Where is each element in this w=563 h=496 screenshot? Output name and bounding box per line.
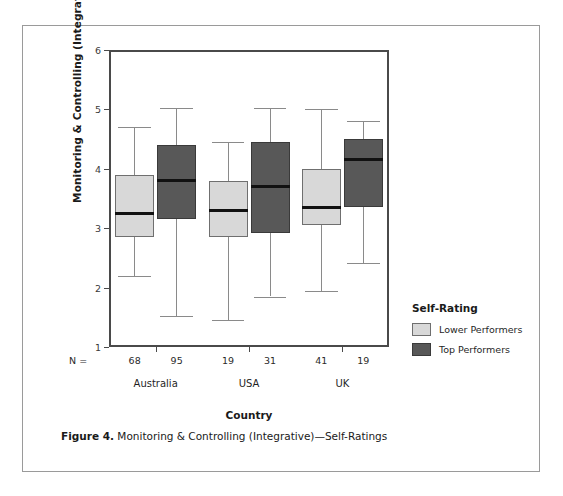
n-value-australia-top-performers: 95 xyxy=(171,355,183,366)
caption-text: Monitoring & Controlling (Integrative)—S… xyxy=(114,430,387,442)
whisker-upper xyxy=(321,109,322,168)
category-label-australia: Australia xyxy=(134,378,178,389)
whisker-lower xyxy=(176,219,177,316)
median-line xyxy=(115,212,154,215)
y-tick-mark-2 xyxy=(104,288,109,289)
y-tick-mark-1 xyxy=(104,347,109,348)
whisker-cap-lower xyxy=(118,276,151,277)
n-value-usa-lower-performers: 19 xyxy=(222,355,234,366)
y-tick-label-1: 1 xyxy=(87,342,101,353)
legend: Self-Rating Lower Performers Top Perform… xyxy=(412,302,537,363)
median-line xyxy=(251,185,290,188)
legend-swatch-top-performers xyxy=(412,343,431,356)
y-tick-mark-5 xyxy=(104,109,109,110)
whisker-cap-lower xyxy=(347,263,380,264)
n-value-uk-lower-performers: 41 xyxy=(315,355,327,366)
whisker-lower xyxy=(321,225,322,290)
legend-label-lower-performers: Lower Performers xyxy=(439,324,522,335)
median-line xyxy=(302,206,341,209)
boxplot-chart: Monitoring & Controlling (Integrative) 6… xyxy=(23,26,541,473)
category-label-usa: USA xyxy=(239,378,260,389)
n-value-australia-lower-performers: 68 xyxy=(129,355,141,366)
figure-page: Monitoring & Controlling (Integrative) 6… xyxy=(0,0,563,496)
legend-swatch-lower-performers xyxy=(412,323,431,336)
whisker-cap-lower xyxy=(305,291,338,292)
whisker-cap-lower xyxy=(160,316,193,317)
median-line xyxy=(344,158,383,161)
n-value-uk-top-performers: 19 xyxy=(357,355,369,366)
whisker-lower xyxy=(228,237,229,320)
y-axis-title: Monitoring & Controlling (Integrative) xyxy=(71,0,83,208)
x-tick-mark-usa xyxy=(249,347,250,352)
y-tick-label-4: 4 xyxy=(87,163,101,174)
caption-prefix: Figure 4. xyxy=(61,430,114,442)
legend-item-lower-performers: Lower Performers xyxy=(412,323,537,336)
y-tick-label-2: 2 xyxy=(87,282,101,293)
median-line xyxy=(209,209,248,212)
box-australia-lower-performers xyxy=(115,175,154,237)
n-equals-label: N = xyxy=(69,355,87,366)
y-tick-label-5: 5 xyxy=(87,104,101,115)
box-uk-top-performers xyxy=(344,139,383,207)
legend-item-top-performers: Top Performers xyxy=(412,343,537,356)
whisker-lower xyxy=(134,237,135,276)
box-uk-lower-performers xyxy=(302,169,341,225)
legend-label-top-performers: Top Performers xyxy=(439,344,510,355)
median-line xyxy=(157,179,196,182)
whisker-cap-upper xyxy=(212,142,245,143)
y-tick-label-3: 3 xyxy=(87,223,101,234)
whisker-cap-lower xyxy=(212,320,245,321)
category-label-uk: UK xyxy=(335,378,349,389)
figure-caption: Figure 4. Monitoring & Controlling (Inte… xyxy=(61,430,387,442)
whisker-cap-lower xyxy=(254,297,287,298)
whisker-upper xyxy=(270,108,271,142)
whisker-cap-upper xyxy=(160,108,193,109)
whisker-upper xyxy=(363,121,364,139)
n-value-usa-top-performers: 31 xyxy=(264,355,276,366)
figure-frame: Monitoring & Controlling (Integrative) 6… xyxy=(22,25,540,472)
y-tick-mark-6 xyxy=(104,50,109,51)
y-tick-label-6: 6 xyxy=(87,45,101,56)
whisker-cap-upper xyxy=(254,108,287,109)
y-tick-mark-3 xyxy=(104,228,109,229)
y-tick-mark-4 xyxy=(104,169,109,170)
whisker-upper xyxy=(134,127,135,175)
whisker-cap-upper xyxy=(305,109,338,110)
whisker-cap-upper xyxy=(118,127,151,128)
whisker-cap-upper xyxy=(347,121,380,122)
x-tick-mark-uk xyxy=(342,347,343,352)
legend-title: Self-Rating xyxy=(412,302,537,314)
whisker-lower xyxy=(363,207,364,262)
whisker-lower xyxy=(270,233,271,297)
whisker-upper xyxy=(176,108,177,145)
whisker-upper xyxy=(228,142,229,181)
x-tick-mark-australia xyxy=(156,347,157,352)
x-axis-title: Country xyxy=(226,409,273,421)
